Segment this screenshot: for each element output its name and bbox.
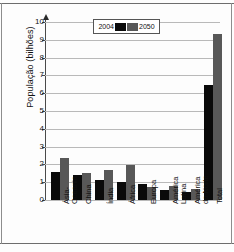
y-axis-tick-label: 10 <box>28 18 44 26</box>
y-axis-tick-label: 1 <box>28 178 44 186</box>
bar-2050 <box>213 34 222 200</box>
scanned-page: População (bilhões) 012345678910 Ásia-Oc… <box>0 0 234 252</box>
x-axis-label: Ásia-Oceania <box>63 176 79 204</box>
legend-swatch-2050-icon <box>127 23 138 31</box>
y-axis-tick-label: 5 <box>28 107 44 115</box>
bar-group <box>95 22 113 200</box>
plot-area: 012345678910 <box>45 22 220 200</box>
x-axis-label: Américado Norte <box>194 175 210 204</box>
y-axis-tick-label: 0 <box>28 196 44 204</box>
x-axis-label-line: Oceania <box>71 176 79 204</box>
bar-group <box>73 22 91 200</box>
bar-2004 <box>160 190 169 200</box>
y-axis-tick-label: 7 <box>28 71 44 79</box>
y-axis-tick-label: 3 <box>28 143 44 151</box>
legend-label-2050: 2050 <box>139 23 155 30</box>
legend-swatch-2004-icon <box>115 23 126 31</box>
x-axis-label-line: Índia <box>106 188 115 204</box>
x-axis-label-line: Total <box>215 188 224 204</box>
y-axis-line <box>45 18 46 200</box>
legend-label-2004: 2004 <box>98 23 114 30</box>
y-axis-tick-label: 8 <box>28 54 44 62</box>
bar-2004 <box>117 182 126 200</box>
x-axis-label-line: Latina <box>180 176 188 204</box>
x-axis-label: Europa <box>150 180 158 204</box>
x-axis-label: Índia <box>107 188 115 204</box>
bar-group <box>160 22 178 200</box>
x-axis-label: Total <box>216 188 224 204</box>
bar-group <box>138 22 156 200</box>
bar-2004 <box>95 180 104 200</box>
chart-legend: 2004 2050 <box>93 19 160 34</box>
bar-2004 <box>51 172 60 200</box>
bar-group <box>51 22 69 200</box>
x-axis-label-line: do Norte <box>202 175 210 204</box>
bar-group <box>182 22 200 200</box>
y-axis-tick-label: 6 <box>28 89 44 97</box>
y-axis-tick-label: 9 <box>28 36 44 44</box>
x-axis-label-line: China <box>84 184 93 204</box>
x-axis-label-line: Europa <box>149 180 158 204</box>
population-bar-chart: População (bilhões) 012345678910 Ásia-Oc… <box>0 0 234 252</box>
y-axis-tick-label: 2 <box>28 160 44 168</box>
bar-group <box>204 22 222 200</box>
bar-2004 <box>138 184 147 200</box>
y-axis-tick-label: 4 <box>28 125 44 133</box>
x-axis-label-line: África <box>128 185 137 204</box>
x-axis-label: AméricaLatina <box>172 176 188 204</box>
x-axis-label: China <box>85 184 93 204</box>
bar-group <box>117 22 135 200</box>
x-axis-label: África <box>129 185 137 204</box>
